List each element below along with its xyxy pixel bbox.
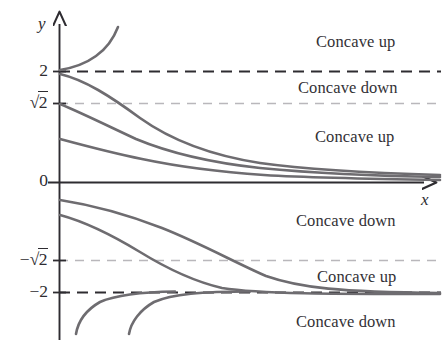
tick-label-neg-sqrt2: −√2 [0,249,48,270]
region-label-below-neg2: Concave down [296,312,396,332]
plot-area [0,0,448,351]
region-label-between-0-and-negsqrt2: Concave down [296,211,396,231]
minus-sign-sqrt2: − [20,249,30,269]
solution-curve-below-neg2-right [129,292,250,335]
region-label-between-2-and-sqrt2: Concave down [298,78,398,98]
region-label-above-2: Concave up [316,32,395,52]
y-axis-label: y [38,14,46,34]
solution-curve-above-2 [60,27,118,70]
sqrt-radicand: 2 [38,91,48,112]
region-label-between-sqrt2-and-0: Concave up [315,127,394,147]
tick-label-0: 0 [22,170,48,191]
x-axis-label: x [421,190,429,210]
region-label-between-negsqrt2-and-neg2: Concave up [317,267,396,287]
concavity-figure: y x 2 √2 0 −√2 −2 Concave up Concave dow… [0,0,448,351]
sqrt-radicand-neg: 2 [38,248,48,269]
tick-label-sqrt2: √2 [8,92,48,113]
tick-label-2: 2 [22,60,48,81]
tick-label-neg-2: −2 [10,281,48,302]
solution-curve-below-neg2-left [76,292,175,335]
